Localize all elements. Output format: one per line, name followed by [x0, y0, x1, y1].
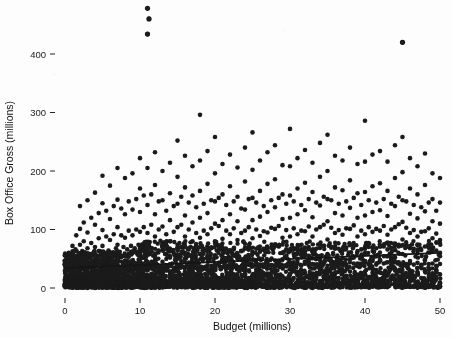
data-point	[250, 130, 255, 135]
data-point	[254, 200, 259, 205]
data-point	[108, 183, 113, 188]
data-point	[266, 250, 270, 254]
data-point	[92, 249, 96, 253]
data-point	[269, 274, 273, 278]
data-point	[220, 241, 224, 245]
data-point	[78, 227, 83, 232]
data-point	[378, 250, 382, 254]
data-point	[329, 225, 334, 230]
data-point	[333, 185, 338, 190]
data-point	[201, 228, 206, 233]
data-point	[265, 182, 270, 187]
data-point	[78, 242, 83, 247]
data-point	[438, 254, 442, 258]
data-point	[359, 228, 364, 233]
data-point	[243, 145, 248, 150]
x-tick-label: 50	[435, 305, 446, 316]
data-point	[359, 203, 364, 208]
data-point	[370, 184, 375, 189]
data-point	[235, 241, 239, 245]
data-point	[280, 163, 285, 168]
data-point	[303, 148, 308, 153]
data-point	[250, 218, 255, 223]
data-point	[85, 198, 90, 203]
data-point	[186, 227, 191, 232]
data-point	[214, 255, 218, 259]
data-point	[164, 232, 169, 237]
data-point	[303, 208, 308, 213]
data-point	[156, 256, 160, 260]
data-point	[160, 169, 165, 174]
data-point	[126, 228, 131, 233]
data-point	[115, 242, 120, 247]
data-point	[201, 201, 206, 206]
data-point	[85, 246, 90, 251]
data-point	[340, 188, 345, 193]
data-point	[171, 248, 175, 252]
data-point	[145, 6, 150, 11]
data-point	[291, 226, 296, 231]
data-point	[138, 186, 143, 191]
data-point	[172, 240, 176, 244]
data-point	[423, 183, 428, 188]
data-point	[325, 132, 330, 137]
data-point	[295, 251, 299, 255]
data-point	[347, 265, 351, 269]
data-point	[213, 171, 218, 176]
data-point	[220, 192, 225, 197]
data-point	[348, 145, 353, 150]
data-point	[265, 210, 270, 215]
y-axis-ticks: 0100200300400	[30, 49, 55, 294]
data-point	[423, 229, 428, 234]
data-point	[415, 164, 420, 169]
data-point	[250, 236, 255, 241]
y-tick-label: 100	[30, 224, 46, 235]
data-point	[378, 149, 383, 154]
data-point	[295, 156, 300, 161]
data-point	[306, 197, 311, 202]
data-point	[408, 231, 413, 236]
data-point	[243, 268, 247, 272]
data-point	[145, 166, 150, 171]
data-point	[153, 234, 158, 239]
data-point	[190, 164, 195, 169]
y-tick-label: 300	[30, 107, 46, 118]
y-tick-label: 400	[30, 49, 46, 60]
data-point	[325, 219, 330, 224]
data-point	[111, 232, 116, 237]
data-point	[393, 176, 398, 181]
data-point	[138, 230, 143, 235]
data-point	[194, 249, 198, 253]
data-point	[314, 275, 318, 279]
data-point	[347, 242, 351, 246]
data-point	[183, 234, 188, 239]
data-point	[228, 241, 232, 245]
data-point	[194, 242, 198, 246]
data-point	[400, 40, 405, 45]
data-point	[104, 208, 109, 213]
data-point	[342, 242, 346, 246]
data-point	[100, 228, 105, 233]
data-point	[235, 219, 240, 224]
data-point	[123, 235, 128, 240]
data-point	[333, 153, 338, 158]
data-point	[381, 224, 386, 229]
data-point	[329, 245, 333, 249]
data-point	[78, 204, 83, 209]
data-point	[370, 230, 375, 235]
data-point	[183, 153, 188, 158]
data-point	[437, 272, 441, 276]
data-point	[400, 135, 405, 140]
data-point	[340, 232, 345, 237]
data-point	[280, 217, 285, 222]
data-point	[366, 198, 371, 203]
data-point	[415, 266, 419, 270]
data-point	[415, 234, 420, 239]
data-point	[262, 240, 266, 244]
data-point	[141, 225, 146, 230]
data-point	[416, 273, 420, 277]
data-point	[126, 199, 131, 204]
data-point	[438, 243, 442, 247]
data-point	[265, 150, 270, 155]
data-point	[322, 247, 326, 251]
